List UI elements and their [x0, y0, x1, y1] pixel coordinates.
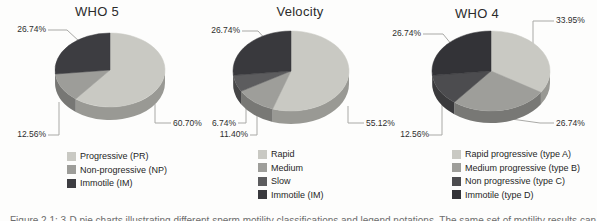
- motility-pie-charts-figure: WHO 5 Velocity WHO 4 Figure 2.1: 3-D pie…: [0, 0, 597, 221]
- legend-label: Immotile (type D): [465, 191, 534, 200]
- slice-value-label: 12.56%: [391, 130, 429, 139]
- chart-title-who4: WHO 4: [417, 6, 537, 21]
- legend-label: Rapid progressive (type A): [465, 150, 571, 159]
- chart-title-who5: WHO 5: [37, 4, 157, 19]
- legend-label: Immotile (IM): [80, 179, 133, 188]
- legend-swatch: [452, 190, 461, 199]
- legend-swatch: [258, 163, 267, 172]
- slice-value-label: 26.74%: [200, 26, 240, 35]
- slice-value-label: 26.74%: [8, 25, 46, 34]
- legend-swatch: [258, 150, 267, 159]
- legend-label: Slow: [271, 177, 291, 186]
- slice-value-label: 55.12%: [366, 119, 406, 128]
- legend-swatch: [67, 179, 76, 188]
- leader-line: [348, 106, 364, 123]
- legend-label: Medium: [271, 164, 303, 173]
- leader-line: [423, 34, 452, 45]
- slice-value-label: 33.95%: [556, 16, 596, 25]
- legend-label: Immotile (IM): [271, 191, 324, 200]
- legend-label: Non progressive (type C): [465, 177, 565, 186]
- legend-swatch: [452, 150, 461, 159]
- leader-line: [48, 30, 80, 42]
- legend-swatch: [258, 190, 267, 199]
- pie-slice: [432, 31, 491, 75]
- legend-swatch: [67, 165, 76, 174]
- slice-value-label: 26.74%: [383, 29, 421, 38]
- legend-swatch: [452, 163, 461, 172]
- legend-label: Rapid: [271, 150, 295, 159]
- chart-title-velocity: Velocity: [240, 4, 360, 19]
- legend-swatch: [67, 152, 76, 161]
- slice-value-label: 26.74%: [556, 119, 596, 128]
- legend-swatch: [258, 177, 267, 186]
- legend-label: Progressive (PR): [80, 152, 149, 161]
- leader-line: [48, 102, 59, 135]
- figure-caption: Figure 2.1: 3-D pie charts illustrating …: [10, 215, 590, 221]
- legend-swatch: [452, 177, 461, 186]
- slice-value-label: 12.56%: [8, 130, 46, 139]
- slice-value-label: 6.74%: [204, 119, 236, 128]
- slice-value-label: 11.40%: [211, 130, 248, 139]
- legend-label: Non-progressive (NP): [80, 166, 167, 175]
- legend-label: Medium progressive (type B): [465, 164, 580, 173]
- leader-line: [155, 104, 171, 123]
- pie-slice: [233, 31, 291, 75]
- pie-slice: [55, 33, 110, 74]
